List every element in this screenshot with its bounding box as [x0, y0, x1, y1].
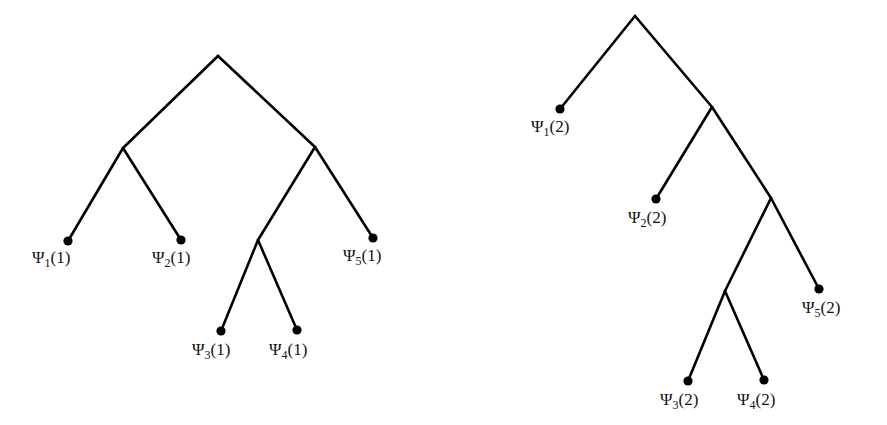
leaf-label: Ψ2(1) [152, 248, 190, 270]
leaf-node-dot [176, 235, 185, 244]
psi-symbol: Ψ [152, 248, 165, 267]
leaf-node-dot [759, 375, 768, 384]
tree-edge [68, 148, 123, 241]
leaf-label: Ψ5(1) [343, 246, 381, 268]
tree-edge [725, 198, 771, 291]
leaf-node-dot [216, 326, 225, 335]
tree-edge [123, 56, 218, 148]
leaf-label: Ψ3(2) [660, 390, 698, 412]
tree-2: Ψ1(2)Ψ2(2)Ψ3(2)Ψ4(2)Ψ5(2) [531, 16, 840, 412]
psi-symbol: Ψ [32, 248, 45, 267]
leaf-argument: (1) [171, 248, 191, 267]
psi-symbol: Ψ [343, 246, 356, 265]
leaf-label: Ψ4(2) [737, 390, 775, 412]
psi-symbol: Ψ [802, 298, 815, 317]
leaf-label: Ψ4(1) [269, 340, 307, 362]
tree-edge [712, 107, 771, 198]
psi-symbol: Ψ [269, 340, 282, 359]
leaf-argument: (2) [550, 117, 570, 136]
leaf-argument: (2) [647, 208, 667, 227]
tree-edge [725, 291, 764, 380]
leaf-node-dot [814, 284, 823, 293]
tree-edge [560, 16, 635, 109]
tree-edge [635, 16, 712, 107]
leaf-label: Ψ1(2) [531, 117, 569, 139]
leaf-argument: (1) [211, 340, 231, 359]
leaf-argument: (1) [51, 248, 71, 267]
tree-edge [218, 56, 315, 147]
leaf-argument: (2) [821, 298, 841, 317]
leaf-label: Ψ1(1) [32, 248, 70, 270]
psi-symbol: Ψ [628, 208, 641, 227]
leaf-label: Ψ2(2) [628, 208, 666, 230]
tree-1: Ψ1(1)Ψ2(1)Ψ3(1)Ψ4(1)Ψ5(1) [32, 56, 381, 362]
leaf-argument: (1) [288, 340, 308, 359]
psi-symbol: Ψ [192, 340, 205, 359]
tree-edge [771, 198, 819, 289]
leaf-label: Ψ5(2) [802, 298, 840, 320]
psi-symbol: Ψ [737, 390, 750, 409]
leaf-argument: (2) [756, 390, 776, 409]
leaf-node-dot [555, 104, 564, 113]
psi-symbol: Ψ [531, 117, 544, 136]
leaf-node-dot [683, 376, 692, 385]
tree-edge [258, 147, 315, 240]
leaf-argument: (1) [362, 246, 382, 265]
leaf-label: Ψ3(1) [192, 340, 230, 362]
leaf-argument: (2) [679, 390, 699, 409]
tree-edge [258, 240, 297, 330]
leaf-node-dot [292, 325, 301, 334]
tree-diagram-canvas: Ψ1(1)Ψ2(1)Ψ3(1)Ψ4(1)Ψ5(1) Ψ1(2)Ψ2(2)Ψ3(2… [0, 0, 887, 425]
tree-edge [123, 148, 181, 240]
leaf-node-dot [651, 194, 660, 203]
tree-edge [221, 240, 258, 331]
leaf-node-dot [368, 233, 377, 242]
tree-edge [315, 147, 373, 238]
tree-edge [656, 107, 712, 199]
tree-edge [688, 291, 725, 381]
psi-symbol: Ψ [660, 390, 673, 409]
leaf-node-dot [63, 236, 72, 245]
